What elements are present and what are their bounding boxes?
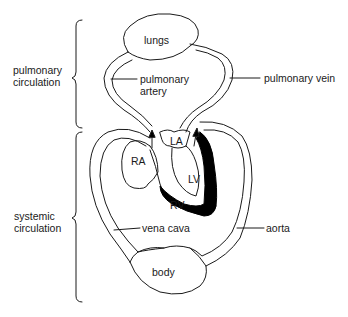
pulmonary-bracket — [72, 20, 82, 128]
lungs-label: lungs — [144, 34, 169, 46]
rv-label: RV — [170, 199, 184, 211]
lv-inner-outline — [172, 146, 199, 196]
aorta-inner — [190, 130, 244, 256]
pulmonary-artery-label: pulmonary artery — [140, 73, 189, 97]
systemic-label-line1: systemic — [14, 210, 61, 222]
aorta-label: aorta — [266, 222, 290, 234]
lv-label: LV — [188, 173, 200, 185]
ra-label: RA — [131, 155, 146, 167]
systemic-label-line2: circulation — [14, 222, 61, 234]
pulmonary-artery-line2: artery — [140, 85, 189, 97]
circulation-diagram: pulmonary circulation systemic circulati… — [0, 0, 348, 317]
systemic-circulation-label: systemic circulation — [14, 210, 61, 234]
pulmonary-vein-label: pulmonary vein — [264, 72, 335, 84]
pulmonary-circulation-label: pulmonary circulation — [13, 64, 62, 88]
pulmonary-label-line2: circulation — [13, 76, 62, 88]
pulmonary-label-line1: pulmonary — [13, 64, 62, 76]
systemic-bracket — [72, 132, 82, 302]
arrow-head-1 — [149, 130, 155, 137]
body-label: body — [152, 266, 175, 278]
pulmonary-vein-outer — [186, 44, 233, 132]
arrow-head-2 — [193, 128, 199, 136]
vena-cava-outer — [90, 129, 150, 262]
vena-cava-label: vena cava — [142, 222, 190, 234]
la-label: LA — [170, 135, 183, 147]
pulmonary-artery-line1: pulmonary — [140, 73, 189, 85]
